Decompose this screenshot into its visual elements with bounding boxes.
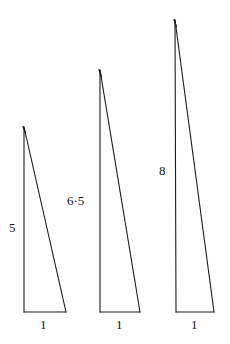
triangle-2-shape: [99, 70, 140, 313]
triangle-2-height-label: 6·5: [67, 194, 84, 207]
triangle-1-hypotenuse: [24, 127, 66, 312]
triangle-2-base-label: 1: [116, 318, 123, 331]
triangle-2-hypotenuse: [100, 70, 140, 312]
triangle-3-shape: [174, 20, 214, 313]
triangle-3-vertical-side: [175, 20, 176, 312]
triangle-3-hypotenuse: [175, 20, 214, 312]
triangle-1-shape: [23, 127, 66, 313]
triangle-1-base-label: 1: [40, 318, 47, 331]
triangle-3-height-label: 8: [159, 164, 166, 177]
triangle-3-base-label: 1: [191, 318, 198, 331]
triangles-drawing: [0, 0, 230, 344]
triangles-figure: 5 6·5 8 1 1 1: [0, 0, 230, 344]
triangle-1-height-label: 5: [9, 221, 16, 234]
